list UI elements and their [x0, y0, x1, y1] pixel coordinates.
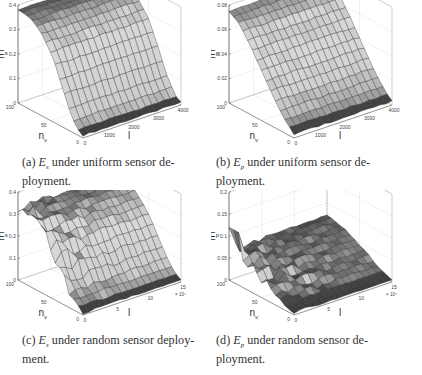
surface-svg: 00.020.040.060.0801000200030004000050100… — [211, 0, 422, 150]
y-tick-label: 0 — [76, 139, 79, 145]
x-axis-label: l — [339, 307, 341, 318]
z-axis-label: Ep — [211, 49, 220, 60]
x-tick-label: 0 — [84, 140, 87, 146]
caption-d: (d) Ep under random sensor de- ployment. — [216, 333, 402, 366]
x-tick-label: 0 — [295, 140, 298, 146]
surface-plot-b: 00.020.040.060.0801000200030004000050100… — [211, 0, 422, 150]
x-axis-label: l — [128, 307, 130, 318]
caption-b: (b) Ep under uniform sensor de- ployment… — [216, 155, 402, 188]
y-axis-label: nv — [39, 307, 48, 320]
z-tick-label: 0.1 — [220, 233, 227, 239]
x-tick-label: 0 — [84, 317, 87, 323]
z-tick-label: 0.08 — [217, 2, 227, 8]
z-tick-label: 0.2 — [220, 190, 227, 195]
surface-plot-a: 00.10.20.30.401000200030004000050100Esnv… — [0, 0, 211, 150]
z-tick-label: 0.1 — [9, 75, 16, 81]
y-tick-label: 0 — [76, 316, 79, 322]
x-tick-label: 10 — [148, 295, 154, 301]
y-tick-label: 50 — [41, 299, 47, 305]
z-tick-label: 0.2 — [9, 233, 16, 239]
z-axis-label: Es — [0, 231, 8, 242]
surface-plot-c: 00.10.20.30.4051015050100× 10⁴Esnvl — [0, 190, 211, 332]
panel-c: 00.10.20.30.4051015050100× 10⁴Esnvl (c) … — [0, 190, 211, 375]
z-tick-label: 0.2 — [9, 51, 16, 57]
x-tick-label: 4000 — [388, 107, 399, 113]
y-tick-label: 100 — [6, 281, 15, 287]
x-tick-label: 10 — [359, 295, 365, 301]
y-axis-label: nv — [250, 307, 259, 320]
y-tick-label: 0 — [287, 316, 290, 322]
caption-a: (a) Es under uniform sensor de- ployment… — [22, 155, 208, 188]
x-tick-label: 1000 — [104, 132, 115, 138]
z-tick-label: 0.4 — [9, 190, 16, 195]
surface-plot-d: 00.050.10.150.2051015050100× 10⁴Epnvl — [211, 190, 422, 332]
surface-svg: 00.10.20.30.4051015050100× 10⁴Esnvl — [0, 190, 211, 332]
panel-d: 00.050.10.150.2051015050100× 10⁴Epnvl (d… — [211, 190, 422, 375]
y-tick-label: 100 — [217, 281, 226, 287]
surface-svg: 00.10.20.30.401000200030004000050100Esnv… — [0, 0, 211, 150]
x-axis-multiplier: × 10⁴ — [386, 292, 397, 297]
x-tick-label: 3000 — [153, 115, 164, 121]
panel-b: 00.020.040.060.0801000200030004000050100… — [211, 0, 422, 190]
z-tick-label: 0.02 — [217, 75, 227, 81]
y-tick-label: 50 — [41, 122, 47, 128]
z-tick-label: 0.05 — [217, 255, 227, 261]
x-tick-label: 5 — [327, 306, 330, 312]
x-tick-label: 4000 — [177, 107, 188, 113]
x-tick-label: 15 — [180, 284, 186, 290]
y-tick-label: 0 — [287, 139, 290, 145]
x-axis-multiplier: × 10⁴ — [175, 292, 186, 297]
z-tick-label: 0.4 — [9, 2, 16, 8]
z-tick-label: 0.3 — [9, 211, 16, 217]
panel-a: 00.10.20.30.401000200030004000050100Esnv… — [0, 0, 211, 190]
y-tick-label: 100 — [6, 104, 15, 110]
z-tick-label: 0.1 — [9, 255, 16, 261]
surface-svg: 00.050.10.150.2051015050100× 10⁴Epnvl — [211, 190, 422, 332]
x-tick-label: 15 — [391, 284, 397, 290]
z-axis-label: Ep — [211, 231, 220, 242]
y-axis-label: nv — [39, 130, 48, 143]
x-axis-label: l — [339, 130, 341, 141]
y-tick-label: 100 — [217, 104, 226, 110]
caption-c: (c) Es under random sensor deploy- ment. — [22, 333, 212, 366]
z-tick-label: 0.3 — [9, 26, 16, 32]
x-axis-label: l — [128, 130, 130, 141]
z-axis-label: Es — [0, 49, 8, 60]
y-axis-label: nv — [250, 130, 259, 143]
z-tick-label: 0.06 — [217, 26, 227, 32]
x-tick-label: 1000 — [315, 132, 326, 138]
z-tick-label: 0.15 — [217, 211, 227, 217]
y-tick-label: 50 — [252, 122, 258, 128]
x-tick-label: 5 — [116, 306, 119, 312]
x-tick-label: 3000 — [364, 115, 375, 121]
x-tick-label: 0 — [295, 317, 298, 323]
y-tick-label: 50 — [252, 299, 258, 305]
